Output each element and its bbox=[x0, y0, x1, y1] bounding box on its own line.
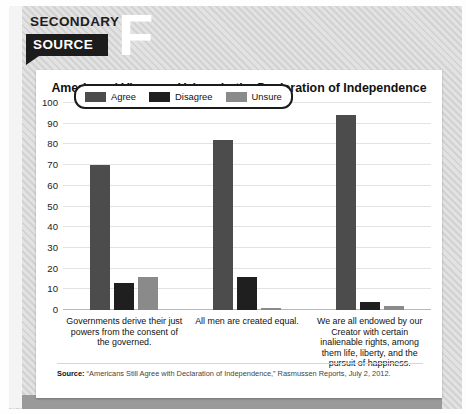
y-axis-tick-label: 0 bbox=[53, 304, 58, 315]
y-axis-tick-label: 10 bbox=[47, 283, 58, 294]
gridline-40: 40 bbox=[63, 226, 431, 227]
page-edge-left bbox=[0, 0, 9, 414]
badge-source-label: SOURCE bbox=[33, 37, 93, 52]
y-axis-tick-label: 60 bbox=[47, 179, 58, 190]
y-axis-tick-label: 20 bbox=[47, 262, 58, 273]
secondary-source-badge: SECONDARY SOURCE F bbox=[26, 12, 206, 70]
page-edge-top bbox=[0, 0, 466, 6]
gridline-50: 50 bbox=[63, 206, 431, 207]
gridline-80: 80 bbox=[63, 143, 431, 144]
page-edge-bottom bbox=[0, 409, 466, 414]
chart-plot-area: 1009080706050403020100Governments derive… bbox=[63, 103, 431, 310]
x-axis-group-label: All men are created equal. bbox=[189, 316, 306, 327]
source-citation-text: “Americans Still Agree with Declaration … bbox=[87, 369, 391, 378]
x-axis-group-label: We are all endowed by our Creator with c… bbox=[311, 316, 428, 369]
page-edge-right bbox=[462, 0, 466, 414]
bar-unsure-group-1 bbox=[138, 277, 158, 310]
legend-label: Agree bbox=[111, 91, 136, 102]
y-axis-tick-label: 40 bbox=[47, 221, 58, 232]
legend-label: Disagree bbox=[175, 91, 213, 102]
y-axis-tick-label: 50 bbox=[47, 200, 58, 211]
source-prefix-label: Source: bbox=[57, 369, 85, 378]
legend-item-disagree[interactable]: Disagree bbox=[149, 91, 213, 102]
bar-agree-group-1 bbox=[90, 165, 110, 310]
badge-letter: F bbox=[118, 6, 153, 64]
legend-item-agree[interactable]: Agree bbox=[85, 91, 136, 102]
bar-disagree-group-2 bbox=[237, 277, 257, 310]
legend-swatch-icon bbox=[85, 92, 106, 102]
chart-card: Americans' Views on Values in the Declar… bbox=[36, 70, 442, 398]
badge-secondary-label: SECONDARY bbox=[30, 14, 119, 29]
legend-item-unsure[interactable]: Unsure bbox=[226, 91, 282, 102]
bar-unsure-group-3 bbox=[384, 306, 404, 310]
source-divider bbox=[57, 363, 423, 364]
bar-disagree-group-1 bbox=[114, 283, 134, 310]
y-axis-tick-label: 30 bbox=[47, 241, 58, 252]
gridline-60: 60 bbox=[63, 185, 431, 186]
y-axis-tick-label: 70 bbox=[47, 159, 58, 170]
x-axis-group-label: Governments derive their just powers fro… bbox=[66, 316, 183, 348]
gridline-20: 20 bbox=[63, 268, 431, 269]
gridline-90: 90 bbox=[63, 123, 431, 124]
legend-swatch-icon bbox=[149, 92, 170, 102]
source-citation: Source: “Americans Still Agree with Decl… bbox=[57, 369, 429, 379]
page-background: SECONDARY SOURCE F Americans' Views on V… bbox=[0, 0, 466, 414]
y-axis-tick-label: 90 bbox=[47, 117, 58, 128]
y-axis-tick-label: 80 bbox=[47, 138, 58, 149]
legend-label: Unsure bbox=[252, 91, 282, 102]
bar-disagree-group-3 bbox=[360, 302, 380, 310]
bar-agree-group-2 bbox=[213, 140, 233, 310]
chart-legend: AgreeDisagreeUnsure bbox=[74, 84, 293, 109]
bar-unsure-group-2 bbox=[261, 308, 281, 310]
page-left-margin-bar bbox=[9, 6, 22, 408]
bar-agree-group-3 bbox=[336, 115, 356, 310]
legend-swatch-icon bbox=[226, 92, 247, 102]
y-axis-tick-label: 100 bbox=[42, 97, 58, 108]
gridline-30: 30 bbox=[63, 247, 431, 248]
gridline-70: 70 bbox=[63, 164, 431, 165]
